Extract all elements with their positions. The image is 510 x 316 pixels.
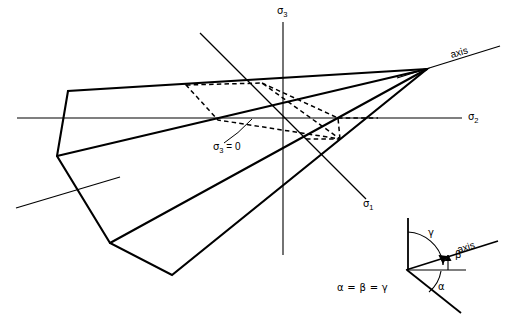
sigma2-subscript: 2 (474, 116, 478, 125)
sigma3-axis-label: σ3 (277, 6, 288, 16)
gamma-arc (408, 232, 443, 262)
sigma1-axis-line-lower (16, 177, 120, 208)
angle-relation-label: α = β = γ (337, 283, 388, 293)
stress-space-diagram (0, 0, 510, 316)
sigma3-subscript: 3 (283, 10, 287, 19)
sigma1-axis-label: σ1 (363, 199, 374, 209)
inset-lower-ray (407, 270, 461, 313)
sigma1-subscript: 1 (369, 203, 373, 212)
inset-angle-construction (406, 218, 498, 313)
inset-axis-ray (406, 241, 498, 270)
figure-root: σ3 σ2 σ1 axis σ3 = 0 γ β α axis α = β = … (0, 0, 510, 316)
pyramid-body (57, 69, 427, 275)
axes-group (16, 22, 500, 255)
sigma3-zero-subscript: 3 (219, 146, 223, 155)
sigma2-axis-label: σ2 (468, 112, 479, 122)
sigma3-zero-annotation: σ3 = 0 (213, 142, 240, 152)
alpha-label: α (438, 282, 445, 292)
sigma3-zero-leader-line (224, 119, 252, 143)
pyramid-edge-middle (110, 69, 427, 243)
sigma3-zero-suffix: = 0 (224, 141, 241, 152)
gamma-label: γ (428, 228, 434, 238)
